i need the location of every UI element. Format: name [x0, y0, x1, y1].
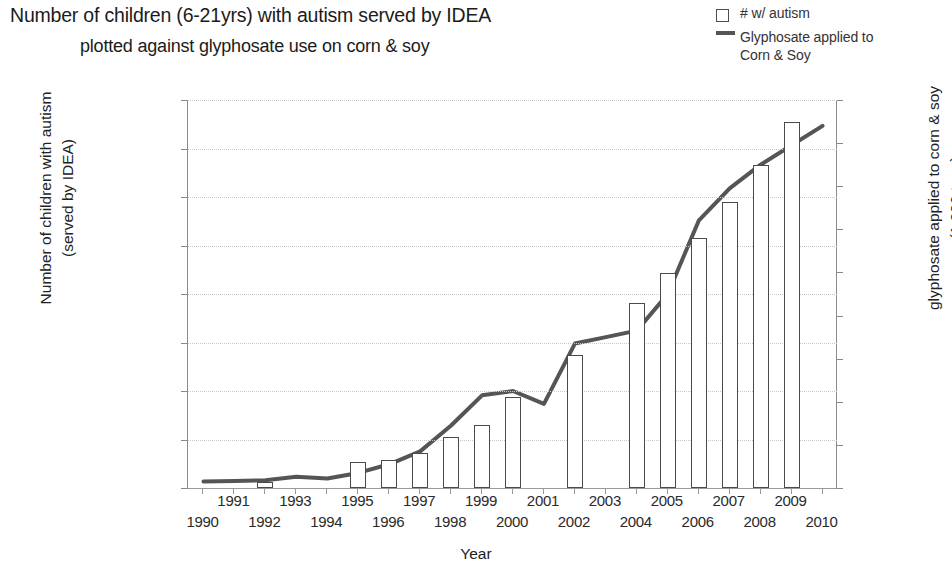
bar [691, 238, 707, 488]
y-axis-left-tickmark [181, 343, 188, 344]
x-axis-tickmark [574, 488, 575, 494]
bar [660, 273, 676, 488]
x-axis-tickmark [264, 488, 265, 494]
x-axis-tick-label: 2004 [620, 513, 652, 530]
x-axis-tick-label: 2008 [744, 513, 776, 530]
x-axis-tick-label: 1995 [341, 492, 373, 509]
x-axis-tickmark [512, 488, 513, 494]
x-axis-tick-label: 2001 [527, 492, 559, 509]
x-axis-tickmark [388, 488, 389, 494]
gridline [188, 246, 837, 247]
y-axis-left-tickmark [181, 391, 188, 392]
x-axis-tickmark [698, 488, 699, 494]
bar [722, 202, 738, 488]
y-axis-right-tickmark [837, 143, 843, 144]
legend-item-glyphosate-label: Glyphosate applied to [740, 29, 873, 45]
bar [257, 482, 273, 488]
bar [412, 453, 428, 488]
x-axis-tick-label: 2000 [496, 513, 528, 530]
x-axis-tick-label: 2009 [774, 492, 806, 509]
y-axis-right-tickmark [837, 445, 843, 446]
chart-title: Number of children (6-21yrs) with autism… [10, 4, 700, 57]
chart-title-line2: plotted against glyphosate use on corn &… [10, 36, 700, 57]
gridline [188, 149, 837, 150]
x-axis-tick-label: 1991 [217, 492, 249, 509]
x-axis-tickmark [822, 488, 823, 494]
y-axis-right-tickmark [837, 359, 843, 360]
y-axis-left-tickmark [181, 149, 188, 150]
y-axis-right-title-line2: (1,000 tons) [947, 157, 952, 240]
x-axis-title: Year [0, 545, 952, 563]
open-square-icon [716, 6, 740, 22]
x-axis-tickmark [636, 488, 637, 494]
x-axis-tick-label: 1993 [279, 492, 311, 509]
x-axis-tick-label: 2007 [713, 492, 745, 509]
x-axis-tick-label: 2002 [558, 513, 590, 530]
y-axis-right-tickmark [837, 229, 843, 230]
bar [505, 397, 521, 488]
y-axis-right-tickmark [837, 100, 843, 101]
y-axis-left-title-line2: (served by IDEA) [59, 139, 76, 257]
gridline [188, 100, 837, 101]
gridline [188, 197, 837, 198]
y-axis-left-tickmark [181, 100, 188, 101]
y-axis-left-tickmark [181, 488, 188, 489]
y-axis-right-tickmark [837, 488, 843, 489]
gridline [188, 391, 837, 392]
x-axis-tick-label: 1994 [310, 513, 342, 530]
x-axis-tick-label: 2003 [589, 492, 621, 509]
chart-title-line1: Number of children (6-21yrs) with autism… [10, 4, 700, 27]
chart-legend: # w/ autism Glyphosate applied to Corn &… [716, 6, 952, 70]
y-axis-left-tickmark [181, 440, 188, 441]
x-axis-tick-label: 1999 [465, 492, 497, 509]
bar [350, 462, 366, 488]
bar [474, 425, 490, 488]
y-axis-left-tickmark [181, 246, 188, 247]
x-axis-tick-labels: 1990199119921993199419951996199719981999… [187, 492, 837, 540]
x-axis-tickmark [450, 488, 451, 494]
gridline [188, 343, 837, 344]
y-axis-right-tickmark [837, 316, 843, 317]
x-axis-tick-label: 1990 [186, 513, 218, 530]
bar [381, 460, 397, 488]
bar [443, 437, 459, 488]
y-axis-left-tickmark [181, 294, 188, 295]
x-axis-tick-label: 2006 [682, 513, 714, 530]
x-axis-tick-label: 1998 [434, 513, 466, 530]
x-axis-tick-label: 1992 [248, 513, 280, 530]
y-axis-right-tickmark [837, 402, 843, 403]
legend-item-glyphosate: Glyphosate applied to Corn & Soy [716, 28, 952, 64]
y-axis-right-tickmark [837, 186, 843, 187]
x-axis-tick-label: 2005 [651, 492, 683, 509]
bar [753, 165, 769, 488]
bar [567, 355, 583, 488]
bar [784, 122, 800, 488]
x-axis-tickmark [760, 488, 761, 494]
x-axis-tick-label: 1996 [372, 513, 404, 530]
legend-item-autism-label: # w/ autism [740, 6, 810, 21]
y-axis-left-title-line1: Number of children with autism [37, 92, 54, 305]
x-axis-tickmark [326, 488, 327, 494]
y-axis-left-tickmark [181, 197, 188, 198]
x-axis-tick-label: 2010 [805, 513, 837, 530]
x-axis-tickmark [202, 488, 203, 494]
x-axis-tick-label: 1997 [403, 492, 435, 509]
gridline [188, 294, 837, 295]
y-axis-right-title-line1: glyphosate applied to corn & soy [925, 86, 942, 310]
bar [629, 303, 645, 488]
legend-item-glyphosate-labels: Glyphosate applied to Corn & Soy [740, 28, 873, 64]
y-axis-right-title: glyphosate applied to corn & soy (1,000 … [923, 13, 952, 383]
legend-item-glyphosate-label2: Corn & Soy [740, 47, 811, 63]
chart-page: Number of children (6-21yrs) with autism… [0, 0, 952, 573]
line-marker-icon [716, 28, 740, 35]
y-axis-left-title: Number of children with autism (served b… [35, 13, 79, 383]
y-axis-right-tickmark [837, 272, 843, 273]
plot-area: 0500001000001500002000002500003000003500… [187, 100, 837, 488]
legend-item-autism: # w/ autism [716, 6, 952, 22]
